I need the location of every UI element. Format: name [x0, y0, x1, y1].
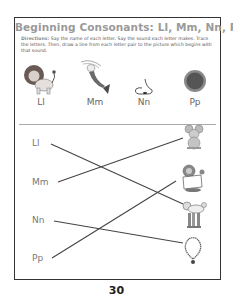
- worksheet-frame: Beginning Consonants: Ll, Mm, Nn, Pp Dir…: [14, 17, 221, 280]
- line-nn-necklace: [54, 221, 183, 243]
- page-number: 30: [0, 284, 233, 297]
- poodle-icon: [181, 200, 207, 230]
- line-ll-poodle: [51, 144, 183, 204]
- line-pp-puppet: [52, 181, 176, 258]
- puppet-icon: [178, 163, 206, 193]
- necklace-icon: [183, 237, 203, 267]
- mouse-icon: [183, 124, 205, 150]
